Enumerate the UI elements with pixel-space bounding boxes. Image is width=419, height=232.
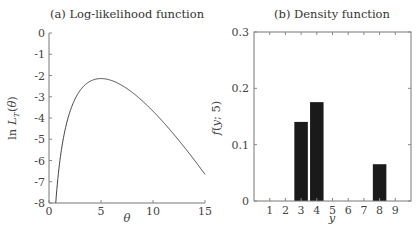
y-tick-label: -8 xyxy=(34,197,45,210)
x-tick-label: 1 xyxy=(266,204,273,217)
x-tick-label: 8 xyxy=(376,204,383,217)
x-tick-label: 4 xyxy=(313,204,320,217)
panel-a-y-label: ln LT(θ) xyxy=(5,96,21,140)
panel-b-y-label: f(y; 5) xyxy=(209,101,223,137)
panel-b-x-label: y xyxy=(328,211,336,225)
y-tick-label: 0.3 xyxy=(232,26,250,39)
bar-y-4 xyxy=(310,102,324,201)
bar-y-8 xyxy=(373,164,387,201)
x-tick-label: 6 xyxy=(345,204,352,217)
x-tick-label: 2 xyxy=(282,204,289,217)
log-likelihood-curve xyxy=(56,79,205,203)
y-tick-label: -4 xyxy=(34,112,45,125)
panel-a-axes: 0-1-2-3-4-5-6-7-8051015 xyxy=(34,27,212,218)
x-tick-label: 5 xyxy=(98,205,105,218)
x-tick-label: 7 xyxy=(360,204,367,217)
y-tick-label: -5 xyxy=(34,133,45,146)
bar-y-3 xyxy=(294,122,308,201)
panel-b-title: (b) Density function xyxy=(274,7,391,21)
y-tick-label: 0 xyxy=(242,195,249,208)
y-tick-label: -7 xyxy=(34,176,45,189)
panel-a-title: (a) Log-likelihood function xyxy=(50,7,205,21)
y-tick-label: -3 xyxy=(34,91,45,104)
y-tick-label: 0 xyxy=(38,27,45,40)
y-tick-label: -2 xyxy=(34,70,45,83)
y-tick-label: -6 xyxy=(34,155,45,168)
x-tick-label: 9 xyxy=(392,204,399,217)
x-tick-label: 10 xyxy=(146,205,160,218)
x-tick-label: 15 xyxy=(198,205,212,218)
x-tick-label: 3 xyxy=(298,204,305,217)
panel-a-log-likelihood: (a) Log-likelihood function 0-1-2-3-4-5-… xyxy=(5,7,212,225)
y-tick-label: 0.1 xyxy=(232,139,250,152)
panel-b-bars xyxy=(294,102,386,201)
panel-b-density: (b) Density function 00.10.20.3123456789… xyxy=(209,7,411,225)
plot-frame xyxy=(254,32,411,201)
x-tick-label: 0 xyxy=(46,205,53,218)
y-tick-label: -1 xyxy=(34,48,45,61)
y-tick-label: 0.2 xyxy=(232,82,250,95)
panel-a-x-label: θ xyxy=(124,211,131,225)
